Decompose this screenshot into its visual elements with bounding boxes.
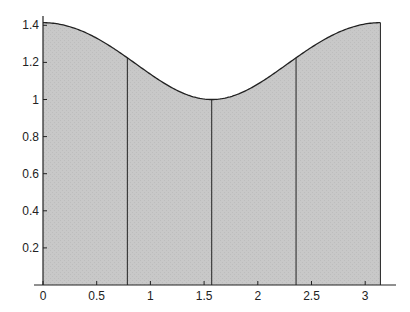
y-tick-label: 0.4	[22, 204, 39, 218]
y-tick-label: 0.6	[22, 167, 39, 181]
area-chart: 00.511.522.530.20.40.60.811.21.4	[0, 0, 410, 312]
y-tick-label: 1.2	[22, 55, 39, 69]
y-tick-label: 1	[32, 93, 39, 107]
y-tick-label: 0.8	[22, 130, 39, 144]
y-tick-label: 0.2	[22, 241, 39, 255]
y-tick-label: 1.4	[22, 18, 39, 32]
x-tick-label: 3	[362, 289, 369, 303]
x-tick-label: 1.5	[196, 289, 213, 303]
x-tick-label: 0.5	[88, 289, 105, 303]
x-tick-label: 2	[254, 289, 261, 303]
x-tick-label: 2.5	[303, 289, 320, 303]
x-tick-label: 0	[40, 289, 47, 303]
x-tick-label: 1	[147, 289, 154, 303]
